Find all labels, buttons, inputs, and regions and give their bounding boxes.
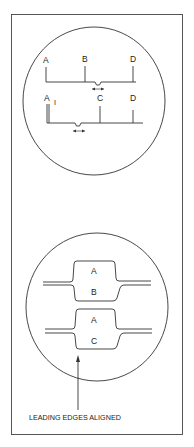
arrow-up-icon bbox=[76, 355, 80, 410]
lower-scope-circle bbox=[26, 233, 168, 381]
pulse-1-label-a: A bbox=[91, 266, 97, 276]
trace-1-baseline bbox=[46, 67, 136, 85]
outer-frame bbox=[12, 15, 183, 435]
diagram-canvas: A B D A I C D A bbox=[0, 0, 194, 447]
upper-scope: A B D A I C D bbox=[23, 27, 165, 175]
trace-2-baseline bbox=[47, 123, 143, 126]
lower-scope: A B A C bbox=[26, 233, 168, 381]
label-c: C bbox=[97, 93, 103, 103]
label-i: I bbox=[54, 99, 56, 106]
pulse-2-label-a: A bbox=[91, 315, 97, 325]
label-d: D bbox=[130, 93, 136, 103]
label-d: D bbox=[130, 54, 136, 64]
pulse-2-label-c: C bbox=[91, 336, 97, 346]
double-arrow-icon bbox=[92, 88, 104, 91]
double-arrow-icon bbox=[73, 130, 85, 133]
label-b: B bbox=[82, 54, 88, 64]
pulse-1-upper-edge bbox=[43, 261, 151, 282]
pulse-1-label-b: B bbox=[91, 287, 97, 297]
pulse-1-lower-edge bbox=[43, 285, 151, 301]
trace-1: A B D bbox=[43, 54, 136, 91]
label-a: A bbox=[44, 93, 50, 103]
caption: LEADING EDGES ALIGNED bbox=[29, 413, 121, 422]
pulse-2-lower-edge bbox=[45, 333, 152, 349]
pulse-2-upper-edge bbox=[45, 309, 152, 329]
trace-2: A I C D bbox=[44, 93, 143, 133]
pulse-2: A C bbox=[45, 309, 152, 349]
label-a: A bbox=[43, 55, 49, 65]
pulse-1: A B bbox=[43, 261, 151, 301]
